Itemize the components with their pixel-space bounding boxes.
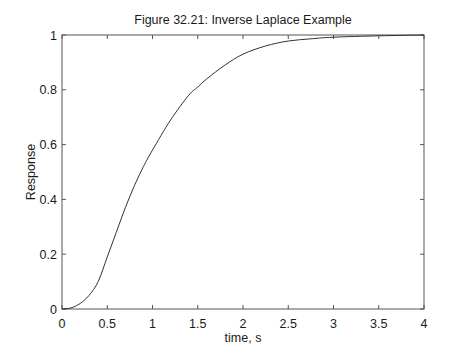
response-curve [62, 35, 424, 309]
y-tick-label: 0.4 [40, 193, 57, 207]
x-tick-label: 2 [240, 317, 247, 331]
x-tick-label: 0.5 [99, 317, 116, 331]
y-axis-ticks [62, 35, 424, 309]
x-axis-tick-labels: 00.511.522.533.54 [59, 317, 428, 331]
y-axis-label: Response [24, 144, 38, 200]
x-axis-label: time, s [225, 331, 262, 345]
x-axis-ticks [62, 35, 424, 309]
y-tick-label: 1 [50, 29, 57, 43]
figure: Figure 32.21: Inverse Laplace Example 00… [0, 0, 450, 358]
y-tick-label: 0.2 [40, 248, 57, 262]
x-tick-label: 0 [59, 317, 66, 331]
plot-area [62, 35, 424, 309]
x-tick-label: 1 [149, 317, 156, 331]
y-tick-label: 0 [50, 303, 57, 317]
y-axis-tick-labels: 00.20.40.60.81 [40, 29, 57, 317]
chart-title: Figure 32.21: Inverse Laplace Example [134, 13, 352, 27]
y-tick-label: 0.8 [40, 83, 57, 97]
y-tick-label: 0.6 [40, 138, 57, 152]
x-tick-label: 3.5 [370, 317, 387, 331]
x-tick-label: 2.5 [280, 317, 297, 331]
x-tick-label: 1.5 [189, 317, 206, 331]
x-tick-label: 3 [330, 317, 337, 331]
axes-box [62, 35, 424, 309]
x-tick-label: 4 [421, 317, 428, 331]
